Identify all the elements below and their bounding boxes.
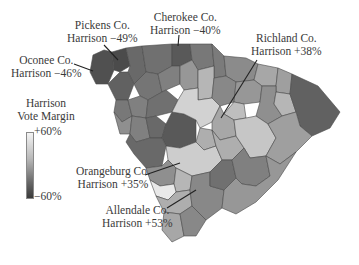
annotation-margin: Harrison −46% xyxy=(11,67,82,80)
annotation-margin: Harrison −49% xyxy=(67,32,138,45)
annotation-oconee: Oconee Co. Harrison −46% xyxy=(11,54,82,80)
annotation-county: Allendale Co. xyxy=(102,204,173,217)
annotation-allendale: Allendale Co. Harrison +53% xyxy=(102,204,173,230)
annotation-county: Richland Co. xyxy=(251,32,322,45)
county-darlington xyxy=(234,80,262,104)
county-aiken xyxy=(126,134,166,168)
annotation-orangeburg: Orangeburg Co. Harrison +35% xyxy=(76,165,150,191)
annotation-margin: Harrison −40% xyxy=(150,24,221,37)
legend-title-line2: Vote Margin xyxy=(14,110,78,123)
legend-min-label: −60% xyxy=(34,190,62,202)
annotation-county: Oconee Co. xyxy=(11,54,82,67)
legend-title: Harrison Vote Margin xyxy=(14,97,78,123)
county-dillon xyxy=(276,68,292,94)
annotation-richland: Richland Co. Harrison +38% xyxy=(251,32,322,58)
legend-max-label: +60% xyxy=(34,125,62,137)
county-fairfield xyxy=(198,66,214,100)
county-anderson xyxy=(108,72,134,100)
legend-title-line1: Harrison xyxy=(14,97,78,110)
annotation-county: Cherokee Co. xyxy=(150,11,221,24)
annotation-margin: Harrison +35% xyxy=(76,178,150,191)
annotation-pickens: Pickens Co. Harrison −49% xyxy=(67,19,138,45)
county-oconee xyxy=(90,50,114,84)
annotation-county: Pickens Co. xyxy=(67,19,138,32)
annotation-cherokee: Cherokee Co. Harrison −40% xyxy=(150,11,221,37)
annotation-margin: Harrison +38% xyxy=(251,45,322,58)
annotation-margin: Harrison +53% xyxy=(102,217,173,230)
legend-color-bar xyxy=(26,132,34,199)
annotation-county: Orangeburg Co. xyxy=(76,165,150,178)
